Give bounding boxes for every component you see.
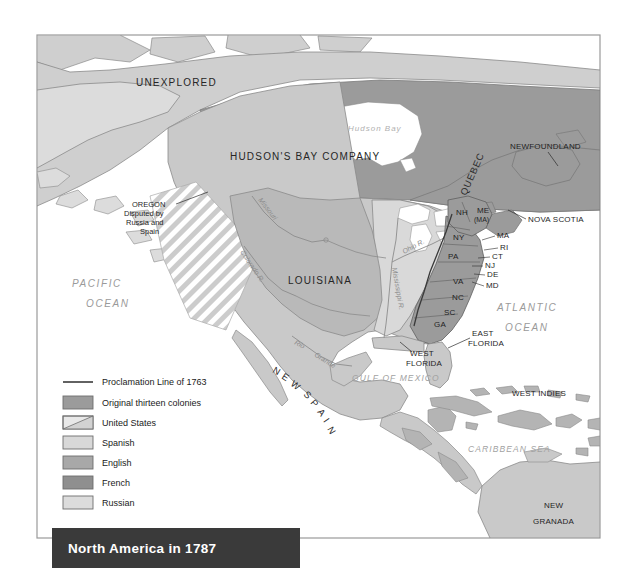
svg-text:English: English [102, 458, 132, 468]
svg-text:Spanish: Spanish [102, 438, 135, 448]
legend-swatch-english [63, 456, 93, 469]
label-nova-scotia: NOVA SCOTIA [528, 215, 584, 224]
legend-swatch-spanish [63, 436, 93, 449]
svg-text:NH: NH [456, 208, 468, 217]
svg-text:Spain: Spain [140, 227, 159, 236]
svg-text:NJ: NJ [485, 261, 495, 270]
svg-text:PACIFIC: PACIFIC [72, 278, 122, 289]
svg-text:VA: VA [453, 277, 464, 286]
svg-text:GA: GA [434, 320, 446, 329]
svg-text:WEST: WEST [410, 349, 434, 358]
label-hudsons-bay-company: HUDSON'S BAY COMPANY [230, 151, 380, 162]
map-figure: UNEXPLORED HUDSON'S BAY COMPANY Hudson B… [0, 0, 636, 588]
svg-text:DE: DE [487, 270, 499, 279]
svg-text:FLORIDA: FLORIDA [406, 359, 443, 368]
svg-text:MA: MA [497, 231, 510, 240]
svg-text:RI: RI [500, 243, 508, 252]
label-newfoundland: NEWFOUNDLAND [510, 142, 581, 151]
svg-text:MD: MD [486, 281, 499, 290]
svg-text:NC: NC [452, 293, 464, 302]
svg-text:NY: NY [453, 233, 465, 242]
legend-swatch-russian [63, 496, 93, 509]
legend-swatch-french [63, 476, 93, 489]
svg-text:ATLANTIC: ATLANTIC [496, 302, 557, 313]
label-west-indies: WEST INDIES [512, 389, 566, 398]
svg-text:Russian: Russian [102, 498, 135, 508]
svg-text:NEW: NEW [544, 501, 564, 510]
legend-swatch-thirteen-colonies [63, 396, 93, 409]
svg-text:United States: United States [102, 418, 157, 428]
map-title-bar: North America in 1787 [52, 528, 300, 568]
svg-text:FLORIDA: FLORIDA [468, 339, 505, 348]
svg-text:Disputed by: Disputed by [124, 209, 164, 218]
svg-text:SC: SC [444, 308, 456, 317]
label-hudson-bay-water: Hudson Bay [348, 124, 402, 133]
svg-text:OCEAN: OCEAN [505, 322, 549, 333]
svg-text:CT: CT [492, 252, 503, 261]
svg-text:OREGON: OREGON [132, 200, 165, 209]
label-unexplored: UNEXPLORED [136, 77, 217, 88]
svg-text:PA: PA [448, 252, 459, 261]
svg-text:ME: ME [477, 206, 489, 215]
svg-text:French: French [102, 478, 130, 488]
svg-text:GRANADA: GRANADA [533, 517, 574, 526]
label-gulf-of-mexico: GULF OF MEXICO [352, 373, 440, 383]
svg-text:Proclamation Line of 1763: Proclamation Line of 1763 [102, 377, 207, 387]
legend-item-united-states: United States [63, 416, 157, 429]
svg-text:Russia and: Russia and [126, 218, 164, 227]
map-title: North America in 1787 [68, 541, 216, 556]
label-caribbean-sea: CARIBBEAN SEA [468, 444, 551, 454]
legend-item-thirteen-colonies: Original thirteen colonies [63, 396, 202, 409]
svg-text:Original thirteen colonies: Original thirteen colonies [102, 398, 202, 408]
svg-text:(MA): (MA) [474, 216, 489, 224]
label-louisiana: LOUISIANA [288, 275, 352, 286]
svg-text:OCEAN: OCEAN [86, 298, 130, 309]
svg-text:EAST: EAST [472, 329, 494, 338]
